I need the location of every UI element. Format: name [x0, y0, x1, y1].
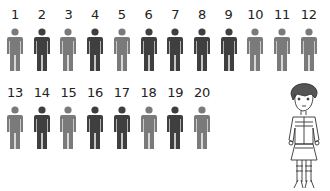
- person-figure: 2: [29, 8, 55, 72]
- person-icon: [87, 106, 103, 150]
- girl-character-icon: [283, 82, 327, 191]
- person-figure: 9: [216, 8, 242, 72]
- person-icon: [60, 106, 76, 150]
- person-icon: [167, 106, 183, 150]
- person-figure: 14: [29, 86, 55, 150]
- figure-number-label: 8: [189, 8, 215, 22]
- figure-number-label: 1: [2, 8, 28, 22]
- figure-number-label: 2: [29, 8, 55, 22]
- person-icon: [87, 28, 103, 72]
- figure-number-label: 10: [242, 8, 268, 22]
- figure-number-label: 6: [136, 8, 162, 22]
- person-figure: 18: [136, 86, 162, 150]
- person-icon: [114, 28, 130, 72]
- cropped-top-text: [0, 0, 330, 2]
- person-figure: 19: [162, 86, 188, 150]
- person-figure: 16: [82, 86, 108, 150]
- person-icon: [7, 28, 23, 72]
- figure-number-label: 3: [55, 8, 81, 22]
- person-icon: [114, 106, 130, 150]
- person-figure: 13: [2, 86, 28, 150]
- person-icon: [301, 28, 317, 72]
- person-icon: [7, 106, 23, 150]
- figure-number-label: 17: [109, 86, 135, 100]
- person-icon: [247, 28, 263, 72]
- person-figure: 17: [109, 86, 135, 150]
- figure-number-label: 14: [29, 86, 55, 100]
- person-figure: 4: [82, 8, 108, 72]
- person-icon: [141, 28, 157, 72]
- figure-number-label: 5: [109, 8, 135, 22]
- figure-number-label: 4: [82, 8, 108, 22]
- person-icon: [221, 28, 237, 72]
- figure-number-label: 20: [189, 86, 215, 100]
- figure-number-label: 11: [269, 8, 295, 22]
- person-figure: 5: [109, 8, 135, 72]
- person-figure: 15: [55, 86, 81, 150]
- figure-number-label: 7: [162, 8, 188, 22]
- person-figure: 11: [269, 8, 295, 72]
- person-figure: 8: [189, 8, 215, 72]
- person-figure: 7: [162, 8, 188, 72]
- figure-number-label: 16: [82, 86, 108, 100]
- person-icon: [60, 28, 76, 72]
- person-icon: [194, 28, 210, 72]
- person-icon: [274, 28, 290, 72]
- figure-number-label: 18: [136, 86, 162, 100]
- person-figure: 6: [136, 8, 162, 72]
- person-figure: 3: [55, 8, 81, 72]
- person-figure: 10: [242, 8, 268, 72]
- person-figure: 12: [296, 8, 322, 72]
- person-figure: 1: [2, 8, 28, 72]
- person-icon: [34, 106, 50, 150]
- person-figure: 20: [189, 86, 215, 150]
- person-icon: [141, 106, 157, 150]
- figure-number-label: 15: [55, 86, 81, 100]
- person-icon: [167, 28, 183, 72]
- figure-number-label: 19: [162, 86, 188, 100]
- figure-number-label: 13: [2, 86, 28, 100]
- figure-number-label: 12: [296, 8, 322, 22]
- person-icon: [194, 106, 210, 150]
- figure-number-label: 9: [216, 8, 242, 22]
- person-icon: [34, 28, 50, 72]
